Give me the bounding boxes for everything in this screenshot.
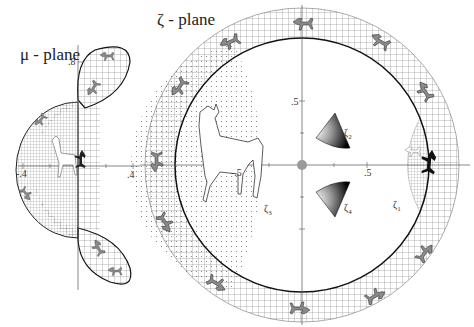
label-zeta2: ζ2 — [344, 128, 352, 141]
zeta-tick-x-left: -.5 — [231, 168, 242, 178]
mu-grid-strip — [78, 105, 100, 230]
zeta-plane-title: ζ - plane — [157, 11, 215, 28]
zeta-tick-x-right: .5 — [364, 168, 372, 178]
origin-marker — [297, 160, 307, 170]
mu-tick-y-top: .8 — [68, 57, 76, 67]
zeta-tick-y-top: .5 — [291, 97, 299, 107]
mu-tick-x-left: -.4 — [16, 169, 27, 179]
label-zeta3: ζ3 — [264, 204, 272, 217]
mu-plane — [16, 45, 140, 290]
mu-lower-loop — [78, 228, 131, 284]
label-zeta4: ζ4 — [344, 203, 352, 216]
mu-tick-x-right: .4 — [127, 170, 135, 180]
zeta-plane — [131, 0, 474, 327]
label-zeta1: ζ1 — [393, 200, 401, 213]
